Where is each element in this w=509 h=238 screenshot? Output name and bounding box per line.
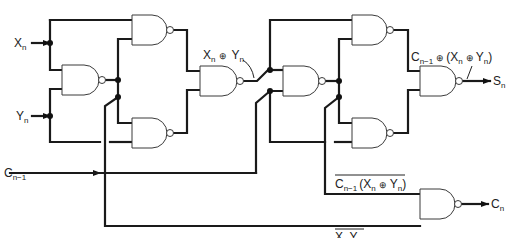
label-yn: Yn	[16, 109, 28, 125]
nand-gate-4	[200, 66, 244, 96]
label-cn: Cn	[491, 197, 504, 213]
nand-gate-carry	[420, 189, 462, 219]
svg-text:Xn⊕Yn: Xn⊕Yn	[203, 48, 244, 64]
nand-gate-3	[132, 118, 174, 148]
label-carry-partial-1: Cn−1(Xn⊕Yn)	[335, 175, 406, 193]
svg-text:Yn: Yn	[16, 109, 28, 125]
label-carry-partial-2: XnYn	[335, 229, 364, 238]
nand-gate-8	[420, 66, 463, 96]
svg-text:Xn: Xn	[14, 36, 26, 52]
svg-text:Cn−1⊕(Xn⊕Yn): Cn−1⊕(Xn⊕Yn)	[411, 50, 492, 66]
svg-text:Sn: Sn	[493, 74, 505, 90]
nand-gate-6	[352, 15, 394, 45]
nand-gate-1	[62, 65, 106, 95]
svg-text:Cn: Cn	[491, 197, 504, 213]
label-xn: Xn	[14, 36, 26, 52]
nand-gate-7	[352, 118, 394, 148]
svg-text:Cn−1(Xn⊕Yn): Cn−1(Xn⊕Yn)	[335, 177, 406, 193]
full-adder-diagram: Xn Yn Cn−1 Sn Cn Xn⊕Yn Cn−1⊕(Xn⊕Yn) Cn−1…	[0, 0, 509, 238]
nand-gate-2	[132, 15, 174, 45]
label-sn: Sn	[493, 74, 505, 90]
svg-text:XnYn: XnYn	[335, 230, 362, 238]
nand-gate-5	[283, 66, 326, 96]
svg-text:Cn−1: Cn−1	[4, 166, 27, 182]
label-cn-1: Cn−1	[4, 166, 27, 182]
